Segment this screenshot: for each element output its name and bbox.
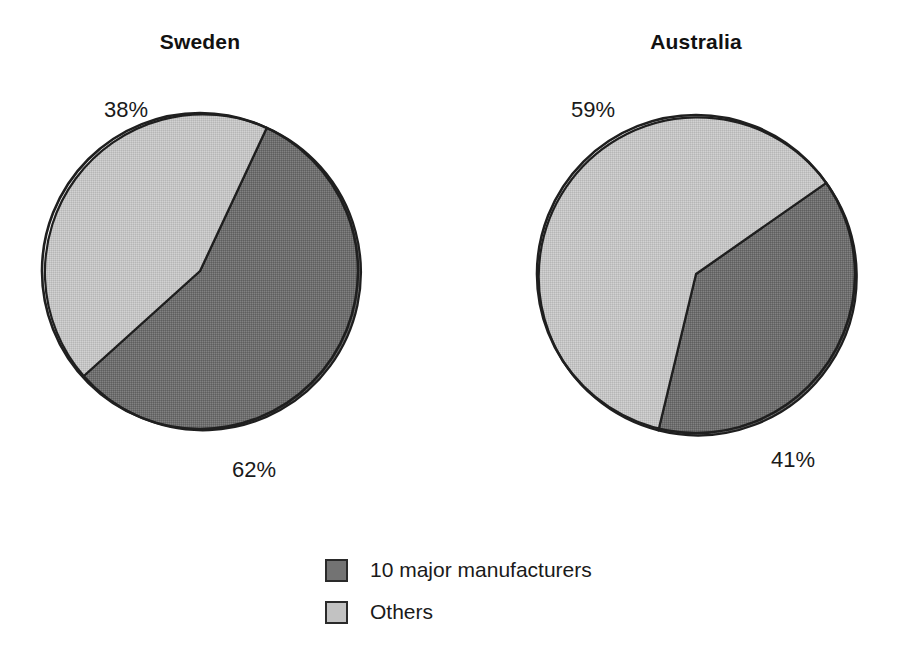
legend-item-major-manufacturers: 10 major manufacturers [325, 549, 725, 591]
data-label-sweden-others: 38% [104, 97, 148, 123]
data-label-sweden-major: 62% [232, 457, 276, 483]
data-label-australia-others: 59% [571, 97, 615, 123]
pie-chart-sweden [38, 109, 362, 433]
legend-swatch-others [325, 601, 348, 624]
pie-chart-australia [533, 111, 859, 437]
legend-label-major-manufacturers: 10 major manufacturers [370, 558, 592, 582]
legend-item-others: Others [325, 591, 725, 633]
legend-label-others: Others [370, 600, 433, 624]
legend-swatch-major-manufacturers [325, 559, 348, 582]
pie-chart-figure: Sweden 38% 62% Australia 59% [0, 0, 898, 666]
legend: 10 major manufacturers Others [325, 549, 725, 633]
panel-title-australia: Australia [650, 30, 742, 54]
data-label-australia-major: 41% [771, 447, 815, 473]
panel-title-sweden: Sweden [160, 30, 241, 54]
